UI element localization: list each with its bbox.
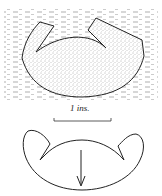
scale-bar [54,118,111,121]
scale-label: 1 ins. [70,103,90,113]
specimen-lower-outline [23,130,143,190]
diagram [0,0,162,196]
